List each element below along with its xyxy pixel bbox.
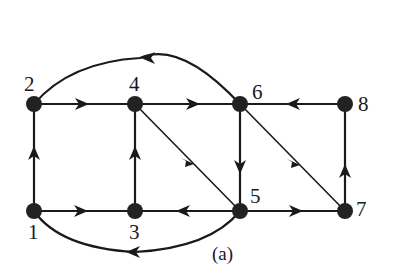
node-label-6: 6 bbox=[252, 82, 263, 103]
directed-graph bbox=[0, 0, 395, 277]
node-label-1: 1 bbox=[28, 222, 39, 243]
figure-caption: (a) bbox=[212, 244, 233, 263]
node-4 bbox=[127, 96, 143, 112]
node-8 bbox=[337, 96, 353, 112]
node-label-3: 3 bbox=[129, 222, 140, 243]
arrowheads bbox=[28, 52, 351, 258]
node-label-2: 2 bbox=[24, 74, 35, 95]
node-6 bbox=[232, 96, 248, 112]
arrow-left-icon bbox=[141, 52, 155, 64]
node-2 bbox=[26, 96, 42, 112]
node-label-7: 7 bbox=[356, 199, 367, 220]
node-3 bbox=[127, 203, 143, 219]
node-5 bbox=[232, 203, 248, 219]
node-label-5: 5 bbox=[250, 186, 261, 207]
node-label-8: 8 bbox=[358, 94, 369, 115]
node-1 bbox=[26, 203, 42, 219]
node-7 bbox=[337, 203, 353, 219]
node-label-4: 4 bbox=[129, 74, 140, 95]
edge-4-5 bbox=[135, 104, 240, 211]
